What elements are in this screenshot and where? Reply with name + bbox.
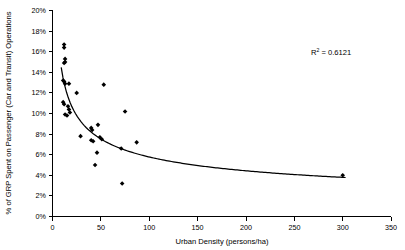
- data-point: [62, 45, 67, 50]
- x-axis-title: Urban Density (persons/ha): [176, 237, 269, 246]
- scatter-chart: 0% 2% 4% 6% 8% 10% 12% 14% 16% 18% 20% 0: [0, 0, 405, 250]
- y-tick-label: 8%: [36, 130, 47, 139]
- y-tick-label: 0%: [36, 212, 47, 221]
- x-tick-label: 200: [240, 223, 252, 232]
- x-tick-label: 150: [192, 223, 204, 232]
- x-tick-label: 250: [288, 223, 300, 232]
- y-axis-title: % of GRP Spent on Passenger (Car and Tra…: [4, 11, 13, 214]
- data-point: [134, 140, 139, 145]
- data-point: [74, 91, 79, 96]
- x-tick-marks: [53, 217, 392, 221]
- y-tick-label: 16%: [32, 47, 47, 56]
- x-tick-label: 350: [385, 223, 397, 232]
- data-point: [95, 150, 100, 155]
- y-tick-marks: [49, 11, 53, 217]
- r-value: = 0.6121: [319, 48, 351, 57]
- x-tick-label: 300: [337, 223, 349, 232]
- data-point: [101, 82, 106, 87]
- x-tick-labels: 0 50 100 150 200 250 300 350: [51, 223, 398, 232]
- x-tick-label: 100: [143, 223, 155, 232]
- data-points-layer: [61, 42, 345, 186]
- y-tick-label: 2%: [36, 191, 47, 200]
- x-tick-label: 0: [51, 223, 55, 232]
- y-tick-label: 4%: [36, 171, 47, 180]
- data-point: [67, 81, 72, 86]
- data-point: [93, 163, 98, 168]
- y-tick-label: 18%: [32, 27, 47, 36]
- data-point: [123, 109, 128, 114]
- x-tick-label: 50: [97, 223, 105, 232]
- data-point: [78, 134, 83, 139]
- data-point: [120, 181, 125, 186]
- y-tick-label: 14%: [32, 68, 47, 77]
- data-point: [119, 146, 124, 151]
- r-squared-annotation: R2 = 0.6121: [311, 47, 351, 57]
- y-tick-label: 6%: [36, 150, 47, 159]
- data-point: [96, 123, 101, 128]
- y-tick-label: 20%: [32, 6, 47, 15]
- y-tick-labels: 0% 2% 4% 6% 8% 10% 12% 14% 16% 18% 20%: [32, 6, 47, 221]
- chart-canvas: 0% 2% 4% 6% 8% 10% 12% 14% 16% 18% 20% 0: [0, 0, 405, 250]
- y-tick-label: 12%: [32, 88, 47, 97]
- y-tick-label: 10%: [32, 109, 47, 118]
